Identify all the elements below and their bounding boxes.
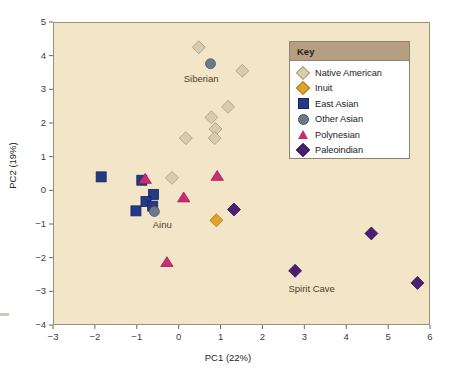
triangle-icon (296, 130, 310, 139)
y-tick-label: −2 (24, 252, 46, 263)
annotation-siberian: Siberian (184, 73, 219, 84)
legend-items: Native AmericanInuitEast AsianOther Asia… (290, 61, 409, 158)
x-tick-label: −2 (83, 331, 107, 342)
legend-item-paleoindian[interactable]: Paleoindian (296, 143, 409, 159)
legend-header: Key (290, 42, 409, 61)
y-tick-label: −3 (24, 285, 46, 296)
y-tick-label: 2 (24, 117, 46, 128)
legend: Key Native AmericanInuitEast AsianOther … (289, 41, 410, 159)
diamond-icon (296, 83, 310, 93)
annotation-ainu: Ainu (153, 219, 172, 230)
legend-item-native-american[interactable]: Native American (296, 65, 409, 81)
x-tick-label: −3 (41, 331, 65, 342)
circle-icon (296, 114, 310, 125)
x-tick-label: 1 (209, 331, 233, 342)
edge-artifact (0, 313, 9, 316)
y-axis-label: PC2 (19%) (7, 126, 18, 206)
legend-item-east-asian[interactable]: East Asian (296, 96, 409, 112)
legend-title: Key (297, 46, 314, 57)
x-axis-label: PC1 (22%) (0, 352, 456, 363)
legend-item-inuit[interactable]: Inuit (296, 81, 409, 97)
legend-label: Other Asian (315, 114, 363, 124)
x-tick-label: 6 (418, 331, 442, 342)
x-tick-label: 0 (167, 331, 191, 342)
legend-item-polynesian[interactable]: Polynesian (296, 127, 409, 143)
chart-root: −3−2−10123456543210−1−2−3−4 SiberianAinu… (0, 0, 456, 372)
legend-item-other-asian[interactable]: Other Asian (296, 112, 409, 128)
x-tick-label: 5 (376, 331, 400, 342)
y-tick-label: 5 (24, 16, 46, 27)
legend-label: Inuit (315, 83, 332, 93)
diamond-icon (296, 145, 310, 155)
x-tick-label: 3 (292, 331, 316, 342)
x-tick-label: 4 (334, 331, 358, 342)
x-tick-label: 2 (250, 331, 274, 342)
y-tick-label: 3 (24, 83, 46, 94)
y-tick-label: 4 (24, 50, 46, 61)
y-tick-label: −1 (24, 218, 46, 229)
x-tick-label: −1 (125, 331, 149, 342)
legend-label: Native American (315, 68, 382, 78)
legend-label: Polynesian (315, 130, 360, 140)
y-tick-label: −4 (24, 319, 46, 330)
square-icon (296, 98, 310, 109)
y-tick-label: 1 (24, 151, 46, 162)
annotation-spirit-cave: Spirit Cave (288, 283, 334, 294)
y-tick-label: 0 (24, 184, 46, 195)
legend-label: East Asian (315, 99, 358, 109)
diamond-icon (296, 68, 310, 78)
legend-label: Paleoindian (315, 145, 363, 155)
